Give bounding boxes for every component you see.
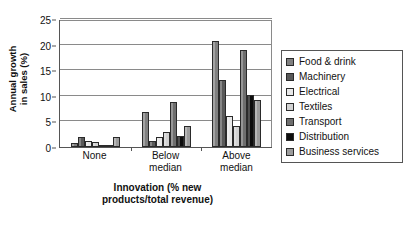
x-axis-title-line-2: products/total revenue) <box>40 194 275 206</box>
legend-item[interactable]: Transport <box>286 114 399 129</box>
legend-item[interactable]: Textiles <box>286 99 399 114</box>
y-axis-tick-label: 10 <box>40 91 51 102</box>
legend-item-label: Machinery <box>299 71 345 82</box>
bar <box>219 80 226 147</box>
bar-groups <box>60 20 272 147</box>
x-axis-category-label: None <box>59 150 130 176</box>
y-axis-title: Annual growth in sales (%) <box>6 14 30 144</box>
legend-item[interactable]: Machinery <box>286 69 399 84</box>
legend-swatch-icon <box>286 73 294 81</box>
bar <box>240 50 247 147</box>
x-axis-title-line-1: Innovation (% new <box>40 182 275 194</box>
bar <box>247 95 254 147</box>
bar <box>156 137 163 147</box>
x-axis-title: Innovation (% new products/total revenue… <box>40 182 275 206</box>
bar <box>184 126 191 147</box>
plot-area <box>59 20 272 148</box>
bar <box>233 126 240 147</box>
legend-item[interactable]: Business services <box>286 144 399 159</box>
bar <box>170 102 177 147</box>
y-axis-title-line-1: Annual growth <box>7 46 18 113</box>
y-axis-tick-mark <box>52 71 56 72</box>
chart-legend: Food & drinkMachineryElectricalTextilesT… <box>281 50 403 163</box>
bar <box>92 142 99 147</box>
x-axis-category-label: Belowmedian <box>130 150 201 176</box>
x-axis-category-label-line: Below <box>130 150 201 162</box>
x-axis-category-labels: NoneBelowmedianAbovemedian <box>59 150 272 176</box>
bar <box>163 132 170 147</box>
y-axis-tick-label: 25 <box>40 15 51 26</box>
bar <box>106 145 113 147</box>
legend-item-label: Food & drink <box>299 56 356 67</box>
bar <box>71 143 78 147</box>
y-axis-tick-label: 15 <box>40 66 51 77</box>
bar-group <box>201 20 272 147</box>
legend-swatch-icon <box>286 148 294 156</box>
y-axis-tick-mark <box>52 122 56 123</box>
x-axis-category-label-line: Above <box>201 150 272 162</box>
y-axis-tick-mark <box>52 45 56 46</box>
bar <box>149 141 156 147</box>
x-axis-category-label: Abovemedian <box>201 150 272 176</box>
chart-figure: Annual growth in sales (%) 0510152025 No… <box>0 0 407 225</box>
bar <box>113 137 120 147</box>
legend-item-label: Transport <box>299 116 341 127</box>
x-axis-category-label-line: None <box>59 150 130 162</box>
legend-item-label: Business services <box>299 146 379 157</box>
legend-item-label: Electrical <box>299 86 340 97</box>
legend-swatch-icon <box>286 103 294 111</box>
y-axis-tick-mark <box>52 20 56 21</box>
bar <box>254 100 261 147</box>
legend-item-label: Distribution <box>299 131 349 142</box>
y-axis-tick-label: 20 <box>40 40 51 51</box>
bar-group <box>131 20 202 147</box>
legend-swatch-icon <box>286 58 294 66</box>
bar <box>99 145 106 147</box>
bar <box>85 141 92 147</box>
y-axis-tick-mark <box>52 148 56 149</box>
bar <box>226 116 233 147</box>
y-axis-title-line-2: in sales (%) <box>18 46 29 113</box>
y-axis-tick-label: 0 <box>45 143 51 154</box>
legend-item[interactable]: Electrical <box>286 84 399 99</box>
y-axis-tick-label: 5 <box>45 117 51 128</box>
y-axis-ticks: 0510152025 <box>30 20 56 148</box>
legend-swatch-icon <box>286 118 294 126</box>
legend-item[interactable]: Distribution <box>286 129 399 144</box>
legend-swatch-icon <box>286 88 294 96</box>
x-axis-category-label-line: median <box>201 162 272 174</box>
gridline <box>60 18 272 19</box>
plot-frame <box>59 20 272 148</box>
legend-item[interactable]: Food & drink <box>286 54 399 69</box>
bar <box>78 137 85 147</box>
x-axis-category-label-line: median <box>130 162 201 174</box>
bar <box>212 41 219 147</box>
bar <box>177 136 184 147</box>
legend-swatch-icon <box>286 133 294 141</box>
bar <box>142 112 149 147</box>
y-axis-tick-mark <box>52 96 56 97</box>
legend-item-label: Textiles <box>299 101 332 112</box>
bar-group <box>60 20 131 147</box>
